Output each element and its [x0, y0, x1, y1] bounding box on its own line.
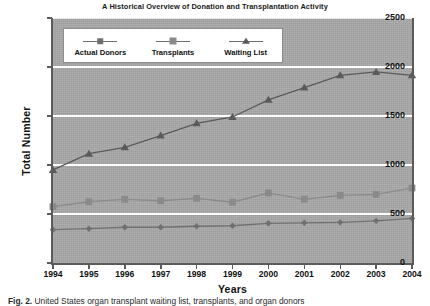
y-tick-label-2500: 2500	[361, 13, 405, 22]
legend-item-transplants[interactable]: Transplants	[137, 29, 210, 62]
datapoint-transplants-1998	[193, 195, 200, 202]
y-tick-label-2000: 2000	[361, 62, 405, 71]
y-tick-mark-1500	[47, 115, 52, 117]
datapoint-transplants-1996	[121, 196, 128, 203]
x-tick-mark-2004	[411, 264, 413, 269]
figure-number: Fig. 2.	[8, 296, 32, 306]
x-tick-mark-1999	[232, 264, 234, 269]
diamond-marker-icon	[81, 36, 119, 47]
y-tick-label-0: 0	[361, 258, 405, 267]
datapoint-actual-donors-2001	[301, 220, 307, 226]
x-tick-mark-2000	[268, 264, 270, 269]
x-tick-mark-1994	[52, 264, 54, 269]
x-tick-mark-1997	[160, 264, 162, 269]
figure-caption: Fig. 2. United States organ transplant w…	[8, 296, 424, 306]
datapoint-actual-donors-1997	[158, 224, 164, 230]
datapoint-actual-donors-2000	[265, 220, 271, 226]
x-tick-mark-1998	[196, 264, 198, 269]
x-tick-mark-2002	[340, 264, 342, 269]
x-axis-title: Years	[52, 283, 413, 295]
triangle-marker-icon	[227, 36, 265, 47]
x-tick-mark-2003	[375, 264, 377, 269]
legend-item-actual-donors[interactable]: Actual Donors	[64, 29, 137, 62]
square-marker-icon	[154, 36, 192, 47]
y-axis-line	[51, 18, 53, 264]
datapoint-actual-donors-1999	[229, 223, 235, 229]
datapoint-actual-donors-1998	[193, 223, 199, 229]
x-tick-mark-1996	[124, 264, 126, 269]
datapoint-actual-donors-1996	[122, 224, 128, 230]
plot-right-border	[412, 18, 414, 264]
datapoint-transplants-1997	[157, 197, 164, 204]
chart-legend: Actual DonorsTransplantsWaiting List	[63, 28, 283, 63]
legend-label: Transplants	[152, 48, 195, 57]
x-tick-label-2004: 2004	[390, 270, 430, 279]
y-tick-label-1000: 1000	[361, 160, 405, 169]
legend-label: Actual Donors	[74, 48, 126, 57]
datapoint-actual-donors-2003	[373, 218, 379, 224]
datapoint-transplants-2001	[301, 196, 308, 203]
caption-text: United States organ transplant waiting l…	[35, 296, 305, 306]
y-axis-title: Total Number	[20, 106, 32, 175]
y-tick-label-500: 500	[361, 209, 405, 218]
datapoint-transplants-2002	[337, 192, 344, 199]
x-tick-mark-1995	[88, 264, 90, 269]
datapoint-actual-donors-2002	[337, 219, 343, 225]
y-tick-mark-0	[47, 262, 52, 264]
series-lines-group	[53, 72, 412, 230]
y-tick-mark-2000	[47, 66, 52, 68]
series-line-waiting-list	[53, 72, 412, 170]
legend-item-waiting-list[interactable]: Waiting List	[209, 29, 282, 62]
datapoint-actual-donors-1995	[86, 226, 92, 232]
y-tick-label-1500: 1500	[361, 111, 405, 120]
datapoint-transplants-1995	[86, 198, 93, 205]
x-tick-mark-2001	[304, 264, 306, 269]
datapoint-transplants-2000	[265, 190, 272, 197]
y-tick-mark-500	[47, 213, 52, 215]
y-tick-mark-2500	[47, 17, 52, 19]
datapoint-transplants-1999	[229, 199, 236, 206]
y-tick-mark-1000	[47, 164, 52, 166]
chart-title: A Historical Overview of Donation and Tr…	[0, 2, 430, 11]
figure-container: A Historical Overview of Donation and Tr…	[0, 0, 430, 306]
legend-label: Waiting List	[224, 48, 267, 57]
datapoint-transplants-2003	[373, 191, 380, 198]
